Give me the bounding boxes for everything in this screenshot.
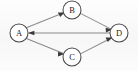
edge-c-to-d-line bbox=[81, 38, 112, 54]
edge-c-to-d bbox=[81, 38, 113, 54]
edge-d-to-a-arrowhead bbox=[28, 31, 34, 36]
node-c[interactable]: C bbox=[63, 48, 81, 66]
node-a-label: A bbox=[16, 28, 23, 38]
node-c-label: C bbox=[69, 52, 75, 62]
graph-diagram: A B C D bbox=[0, 0, 138, 71]
edge-a-to-b-line bbox=[26, 13, 63, 28]
edge-b-to-d-line bbox=[80, 13, 111, 29]
edge-b-to-d bbox=[80, 13, 112, 32]
node-b[interactable]: B bbox=[63, 1, 81, 19]
node-d[interactable]: D bbox=[110, 24, 128, 42]
edge-a-to-c-line bbox=[26, 39, 63, 54]
node-b-label: B bbox=[69, 5, 75, 15]
node-a[interactable]: A bbox=[10, 24, 28, 42]
edge-a-to-b bbox=[26, 12, 64, 27]
node-d-label: D bbox=[116, 28, 122, 38]
edge-d-to-a bbox=[28, 31, 110, 36]
edge-a-to-c bbox=[26, 39, 64, 57]
graph-canvas: A B C D bbox=[0, 0, 138, 71]
